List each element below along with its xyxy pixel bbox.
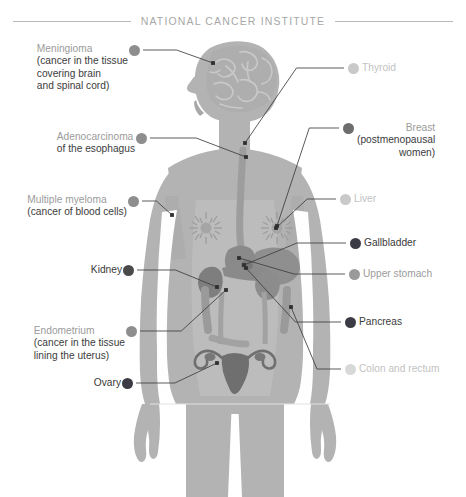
anchor-dot-ovary xyxy=(215,361,219,365)
anchor-dot-liver xyxy=(274,226,278,230)
label-sub-endometrium-0: (cancer in the tissue xyxy=(34,337,125,349)
label-title-meningioma: Meningioma xyxy=(37,43,128,55)
label-dot-colon-and-rectum[interactable] xyxy=(345,364,356,375)
label-sub-meningioma-0: (cancer in the tissue xyxy=(37,55,128,67)
anchor-dot-kidney xyxy=(215,285,219,289)
label-title-liver: Liver xyxy=(354,193,376,205)
anchor-dot-upper-stomach xyxy=(237,256,241,260)
label-pancreas[interactable]: Pancreas xyxy=(359,316,402,328)
label-title-endometrium: Endometrium xyxy=(34,325,125,337)
label-sub-breast-0: (postmenopausal xyxy=(357,134,435,146)
label-breast[interactable]: Breast(postmenopausalwomen) xyxy=(357,122,435,159)
label-colon-and-rectum[interactable]: Colon and rectum xyxy=(359,363,439,375)
label-title-adenocarcinoma-esophagus: Adenocarcinoma xyxy=(57,131,135,143)
label-ovary[interactable]: Ovary xyxy=(94,377,121,389)
label-sub-multiple-myeloma-0: (cancer of blood cells) xyxy=(27,206,127,218)
cancer-anatomy-diagram: NATIONAL CANCER INSTITUTE Meningioma(can… xyxy=(0,0,466,497)
label-dot-breast[interactable] xyxy=(343,123,354,134)
anchor-dot-thyroid xyxy=(243,141,247,145)
label-liver[interactable]: Liver xyxy=(354,193,376,205)
label-dot-ovary[interactable] xyxy=(122,378,133,389)
label-sub-adenocarcinoma-esophagus-0: of the esophagus xyxy=(57,143,135,155)
anchor-dot-pancreas xyxy=(244,266,248,270)
label-dot-liver[interactable] xyxy=(340,194,351,205)
label-dot-adenocarcinoma-esophagus[interactable] xyxy=(136,133,147,144)
label-dot-thyroid[interactable] xyxy=(348,63,359,74)
label-upper-stomach[interactable]: Upper stomach xyxy=(363,268,432,280)
label-dot-endometrium[interactable] xyxy=(126,326,137,337)
label-kidney[interactable]: Kidney xyxy=(91,264,122,276)
label-title-multiple-myeloma: Multiple myeloma xyxy=(27,194,127,206)
label-title-kidney: Kidney xyxy=(91,264,122,276)
label-title-ovary: Ovary xyxy=(94,377,121,389)
anchor-dot-meningioma xyxy=(211,61,215,65)
anchor-dot-endometrium xyxy=(224,288,228,292)
label-dot-gallbladder[interactable] xyxy=(350,238,361,249)
label-dot-meningioma[interactable] xyxy=(129,45,140,56)
label-dot-pancreas[interactable] xyxy=(345,317,356,328)
brain-organ xyxy=(207,46,277,113)
label-meningioma[interactable]: Meningioma(cancer in the tissuecovering … xyxy=(37,43,128,92)
label-title-upper-stomach: Upper stomach xyxy=(363,268,432,280)
label-dot-upper-stomach[interactable] xyxy=(349,269,360,280)
label-title-colon-and-rectum: Colon and rectum xyxy=(359,363,439,375)
label-title-pancreas: Pancreas xyxy=(359,316,402,328)
label-thyroid[interactable]: Thyroid xyxy=(362,62,396,74)
anchor-dot-colon-and-rectum xyxy=(289,305,293,309)
label-adenocarcinoma-esophagus[interactable]: Adenocarcinomaof the esophagus xyxy=(57,131,135,156)
anchor-dot-multiple-myeloma xyxy=(170,213,174,217)
label-title-breast: Breast xyxy=(357,122,435,134)
label-title-thyroid: Thyroid xyxy=(362,62,396,74)
anchor-dot-adenocarcinoma-esophagus xyxy=(244,155,248,159)
label-multiple-myeloma[interactable]: Multiple myeloma(cancer of blood cells) xyxy=(27,194,127,219)
label-title-gallbladder: Gallbladder xyxy=(364,237,416,249)
label-dot-kidney[interactable] xyxy=(123,265,134,276)
label-sub-endometrium-1: lining the uterus) xyxy=(34,350,125,362)
label-dot-multiple-myeloma[interactable] xyxy=(128,196,139,207)
esophagus-organ xyxy=(240,150,243,248)
label-sub-meningioma-2: and spinal cord) xyxy=(37,80,128,92)
label-sub-breast-1: women) xyxy=(357,147,435,159)
label-endometrium[interactable]: Endometrium(cancer in the tissuelining t… xyxy=(34,325,125,362)
label-sub-meningioma-1: covering brain xyxy=(37,68,128,80)
label-gallbladder[interactable]: Gallbladder xyxy=(364,237,416,249)
